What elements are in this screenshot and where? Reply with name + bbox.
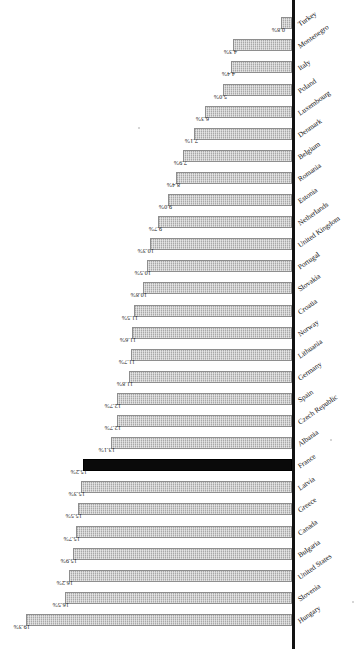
category-label-portugal: Portugal (296, 250, 321, 272)
category-label-greece: Greece (296, 496, 318, 515)
chart-figure: 19.3%16.5%16.2%15.9%15.7%15.5%15.3%15.2%… (0, 0, 364, 649)
value-label-latvia: 15.3% (69, 491, 85, 498)
value-label-greece: 15.5% (66, 514, 82, 521)
value-label-hungary: 19.3% (14, 624, 30, 631)
category-label-canada: Canada (296, 517, 319, 537)
chart-rotated-canvas: 19.3%16.5%16.2%15.9%15.7%15.5%15.3%15.2%… (0, 0, 364, 649)
value-label-france: 15.2% (70, 469, 86, 476)
bar-rect (168, 194, 292, 206)
value-label-lithuania: 11.7% (118, 359, 134, 366)
bar-rect (233, 39, 292, 51)
scan-speck (352, 601, 354, 603)
category-label-italy: Italy (296, 58, 312, 73)
scan-speck (138, 127, 140, 129)
value-label-croatia: 11.5% (121, 315, 137, 322)
category-label-albania: Albania (296, 428, 320, 449)
value-label-spain: 12.7% (104, 403, 120, 410)
bar-rect (183, 150, 292, 162)
value-label-montenegro: 4.3% (223, 49, 236, 56)
bar-rect (117, 415, 292, 427)
bar-rect (111, 437, 292, 449)
value-label-portugal: 10.5% (135, 270, 151, 277)
bar-rect (231, 62, 292, 74)
category-label-slovenia: Slovenia (296, 581, 322, 603)
bar-rect (132, 327, 292, 339)
category-label-france: France (296, 452, 317, 471)
value-label-bulgaria: 15.9% (60, 558, 76, 565)
bar-rect (131, 349, 292, 361)
category-label-hungary: Hungary (296, 603, 322, 625)
value-label-luxembourg: 6.3% (196, 116, 209, 123)
value-label-slovenia: 16.5% (52, 602, 68, 609)
bar-rect (65, 592, 292, 604)
category-label-poland: Poland (296, 76, 318, 95)
bar-rect (176, 172, 292, 184)
bar-rect (76, 526, 292, 538)
value-label-norway: 11.6% (120, 337, 136, 344)
value-label-united-states: 16.2% (56, 580, 72, 587)
bar-rect (194, 128, 292, 140)
value-label-czech-republic: 12.7% (104, 425, 120, 432)
bar-rect (147, 260, 292, 272)
category-axis-line (292, 0, 295, 649)
bar-rect (26, 614, 292, 626)
value-label-poland: 5.0% (214, 94, 227, 101)
bar-rect (69, 570, 292, 582)
value-label-albania: 13.1% (99, 447, 115, 454)
value-label-italy: 4.4% (222, 72, 235, 79)
category-label-belgium: Belgium (296, 139, 322, 161)
category-label-romania: Romania (296, 161, 323, 183)
category-label-lithuania: Lithuania (296, 337, 324, 360)
value-label-germany: 11.8% (117, 381, 133, 388)
category-label-turkey: Turkey (296, 9, 318, 28)
category-label-norway: Norway (296, 317, 320, 338)
bar-rect (205, 106, 292, 118)
bar-rect (78, 504, 292, 516)
value-label-slovakia: 10.8% (131, 293, 147, 300)
category-label-bulgaria: Bulgaria (296, 537, 322, 559)
value-label-estonia: 9.0% (159, 204, 172, 211)
value-label-belgium: 7.9% (174, 160, 187, 167)
value-label-netherlands: 9.7% (149, 226, 162, 233)
value-label-romania: 8.4% (167, 182, 180, 189)
bar-rect (129, 371, 292, 383)
bar-rect (158, 216, 292, 228)
bar-rect (223, 84, 292, 96)
plot-area: 19.3%16.5%16.2%15.9%15.7%15.5%15.3%15.2%… (0, 0, 364, 649)
category-label-denmark: Denmark (296, 116, 323, 139)
value-label-united-kingdom: 10.3% (138, 248, 154, 255)
bar-rect (134, 305, 292, 317)
value-label-canada: 15.7% (63, 536, 79, 543)
bar-rect (83, 459, 292, 471)
category-label-estonia: Estonia (296, 186, 319, 206)
category-label-germany: Germany (296, 359, 323, 382)
category-label-croatia: Croatia (296, 296, 319, 316)
category-label-latvia: Latvia (296, 475, 316, 493)
bar-rect (81, 481, 292, 493)
value-label-denmark: 7.1% (185, 138, 198, 145)
category-label-spain: Spain (296, 387, 315, 404)
scan-speck (330, 439, 332, 441)
bar-rect (150, 238, 292, 250)
value-label-turkey: 0.8% (272, 27, 285, 34)
bar-rect (117, 393, 292, 405)
bar-rect (73, 548, 292, 560)
bar-rect (143, 283, 292, 295)
category-label-slovakia: Slovakia (296, 272, 322, 294)
